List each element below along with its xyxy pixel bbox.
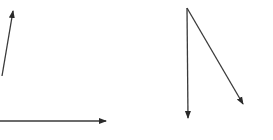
vector-diagram [0,0,273,140]
vector-c-down-arrow [187,8,188,118]
right-figure [187,8,243,118]
vector-d-diagonal-arrow [187,8,243,104]
vector-a-upward-arrow [2,11,13,76]
left-figure [0,11,106,121]
